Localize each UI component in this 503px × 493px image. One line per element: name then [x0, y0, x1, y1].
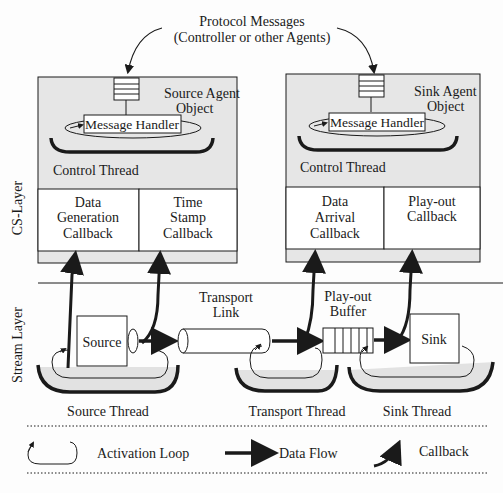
svg-text:Callback: Callback [310, 226, 360, 241]
svg-text:Callback: Callback [407, 209, 457, 224]
protocol-arrow-right [337, 28, 374, 72]
svg-text:Message Handler: Message Handler [330, 115, 425, 130]
transport-thread-label: Transport Thread [249, 404, 346, 419]
legend-callback: Callback [419, 444, 469, 459]
svg-text:Buffer: Buffer [330, 304, 367, 319]
callback-icon [374, 445, 398, 466]
sink-thread-label: Sink Thread [383, 404, 452, 419]
legend-data-flow: Data Flow [279, 446, 339, 461]
sink-agent-title2: Object [427, 99, 464, 114]
time-stamp-callback-arrow [142, 256, 160, 343]
svg-text:Generation: Generation [57, 210, 119, 225]
legend: Activation Loop Data Flow Callback [28, 442, 469, 466]
play-out-buffer: Play-out Buffer [323, 289, 373, 353]
transport-link: Transport Link [178, 290, 270, 353]
protocol-title: Protocol Messages [199, 14, 304, 29]
stream-layer-label: Stream Layer [10, 307, 25, 383]
source-agent-object: Source Agent Object Message Handler Cont… [38, 77, 240, 263]
source-control-thread-label: Control Thread [53, 163, 139, 178]
svg-text:Message Handler: Message Handler [85, 117, 180, 132]
source-agent-title2: Object [176, 101, 213, 116]
svg-text:Callback: Callback [63, 226, 113, 241]
sink-agent-object: Sink Agent Object Message Handler Contro… [286, 74, 480, 262]
sink-control-thread-label: Control Thread [300, 160, 386, 175]
protocol-subtitle: (Controller or other Agents) [174, 30, 331, 46]
sink-agent-title: Sink Agent [414, 84, 477, 99]
activation-loop-icon [28, 442, 77, 464]
data-generation-callback-arrow [68, 256, 75, 368]
svg-text:Time: Time [173, 195, 202, 210]
svg-text:Sink: Sink [421, 332, 447, 347]
svg-text:Data: Data [75, 195, 102, 210]
svg-text:Play-out: Play-out [324, 289, 372, 304]
legend-activation-loop: Activation Loop [97, 446, 189, 461]
svg-text:Arrival: Arrival [315, 210, 356, 225]
svg-text:Transport: Transport [199, 290, 253, 305]
cs-layer-label: CS-Layer [10, 180, 25, 235]
source-thread-label: Source Thread [67, 404, 149, 419]
protocol-arrow-left [128, 28, 162, 72]
svg-text:Link: Link [213, 305, 239, 320]
architecture-diagram: Protocol Messages (Controller or other A… [0, 0, 503, 493]
source-agent-title: Source Agent [164, 86, 240, 101]
svg-text:Data: Data [322, 194, 349, 209]
svg-text:Callback: Callback [163, 226, 213, 241]
data-arrival-callback-arrow [305, 255, 315, 340]
svg-text:Source: Source [83, 335, 122, 350]
svg-text:Play-out: Play-out [408, 194, 456, 209]
svg-text:Stamp: Stamp [170, 210, 206, 225]
